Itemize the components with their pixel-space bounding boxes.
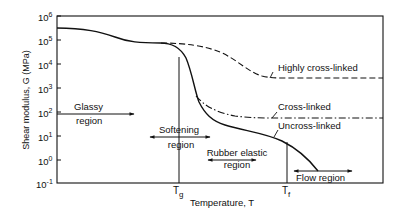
rubber-label-2: region (224, 159, 250, 170)
svg-text:101: 101 (38, 131, 53, 143)
y-tick-labels: 106 105 104 103 102 101 100 10-1 (36, 11, 53, 190)
y-axis-ticks (57, 16, 61, 160)
glassy-label-1: Glassy (74, 101, 103, 112)
softening-label-1: Softening (159, 124, 199, 135)
flow-label: Flow region (296, 172, 345, 183)
svg-text:104: 104 (38, 59, 53, 71)
svg-text:106: 106 (38, 11, 53, 23)
glassy-label-2: region (76, 115, 102, 126)
svg-text:102: 102 (38, 107, 53, 119)
y-axis-label: Shear modulus, G (MPa) (21, 50, 31, 150)
cross-leader (272, 112, 277, 118)
svg-text:100: 100 (38, 155, 53, 167)
modulus-temperature-chart: 106 105 104 103 102 101 100 10-1 Shear m… (0, 0, 402, 221)
svg-text:10-1: 10-1 (36, 178, 53, 190)
cross-linked-label: Cross-linked (278, 101, 331, 112)
uncross-leader (274, 130, 278, 137)
svg-text:103: 103 (38, 83, 53, 95)
rubber-label-1: Rubber elastic (207, 147, 268, 158)
x-axis-label: Temperature, T (190, 197, 254, 208)
svg-text:105: 105 (38, 35, 53, 47)
highly-cross-linked-label: Highly cross-linked (278, 62, 358, 73)
tg-label: Tg (173, 185, 184, 199)
softening-label-2: region (168, 139, 194, 150)
uncross-linked-label: Uncross-linked (278, 120, 341, 131)
tf-label: Tf (282, 185, 291, 199)
